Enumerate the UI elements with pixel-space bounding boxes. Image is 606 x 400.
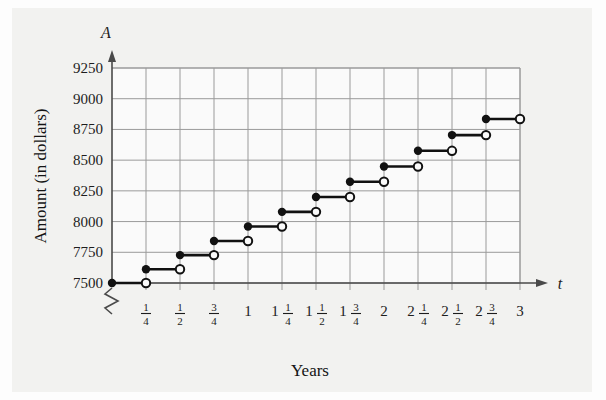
tick-fraction-numerator: 1 [177,301,183,313]
y-axis-tick-label: 7500 [73,275,103,291]
y-axis-tick-label: 9000 [73,91,103,107]
tick-whole-number: 2 [380,303,388,319]
tick-fraction-denominator: 4 [489,315,495,327]
open-endpoint-marker [244,237,252,245]
y-axis-tick-labels: 75007750800082508500875090009250 [73,60,103,291]
x-axis-tick-label: 1 [244,303,252,319]
x-axis-tick-label: 234 [475,301,497,327]
closed-endpoint-marker [210,237,218,245]
closed-endpoint-marker [448,131,456,139]
tick-whole-number: 1 [339,303,347,319]
tick-fraction-denominator: 2 [455,315,461,327]
y-axis-tick-label: 8500 [73,152,103,168]
x-axis-tick-label: 214 [407,301,429,327]
open-endpoint-marker [380,178,388,186]
tick-fraction-numerator: 1 [455,301,461,313]
y-axis-tick-label: 7750 [73,244,103,260]
tick-whole-number: 2 [475,303,483,319]
tick-fraction-numerator: 3 [211,301,217,313]
open-endpoint-marker [210,251,218,259]
tick-fraction-numerator: 3 [489,301,495,313]
x-axis-title: Years [291,361,329,380]
x-axis-tick-label: 14 [141,301,151,327]
x-axis-tick-label: 34 [209,301,219,327]
closed-endpoint-marker [380,162,388,170]
x-axis-variable-label: t [558,275,563,292]
open-endpoint-marker [346,193,354,201]
tick-whole-number: 1 [271,303,279,319]
tick-whole-number: 1 [305,303,313,319]
tick-whole-number: 1 [244,303,252,319]
open-endpoint-marker [482,131,490,139]
tick-whole-number: 2 [441,303,449,319]
tick-fraction-numerator: 1 [143,301,149,313]
closed-endpoint-marker [176,251,184,259]
closed-endpoint-marker [278,208,286,216]
y-axis-break-icon [105,288,118,314]
y-axis-tick-label: 9250 [73,60,103,76]
y-axis-tick-label: 8750 [73,121,103,137]
figure-page: 75007750800082508500875090009250 1412341… [0,0,606,400]
y-axis-arrow-icon [108,50,116,62]
tick-fraction-denominator: 4 [285,315,291,327]
closed-endpoint-marker [346,178,354,186]
tick-fraction-denominator: 2 [177,315,183,327]
open-endpoint-marker [414,162,422,170]
y-axis-title: Amount (in dollars) [31,108,50,243]
x-axis-tick-label: 112 [305,301,327,327]
tick-fraction-denominator: 4 [421,315,427,327]
open-endpoint-marker [448,147,456,155]
closed-endpoint-marker [142,265,150,273]
tick-fraction-numerator: 1 [421,301,427,313]
x-axis-tick-label: 114 [271,301,293,327]
x-axis-tick-labels: 141234111411213422142122343 [141,301,524,327]
y-axis-tick-label: 8250 [73,183,103,199]
x-axis-arrow-icon [536,279,548,287]
y-axis-tick-label: 8000 [73,214,103,230]
tick-fraction-denominator: 4 [353,315,359,327]
x-axis-tick-label: 2 [380,303,388,319]
closed-endpoint-marker [312,193,320,201]
open-endpoint-marker [312,208,320,216]
x-axis-tick-label: 212 [441,301,463,327]
tick-fraction-numerator: 1 [319,301,325,313]
tick-fraction-numerator: 3 [353,301,359,313]
closed-endpoint-marker [244,222,252,230]
y-axis-variable-label: A [100,24,111,41]
open-endpoint-marker [142,279,150,287]
x-axis-tick-label: 12 [175,301,185,327]
x-axis-tick-label: 3 [516,303,524,319]
open-endpoint-marker [176,265,184,273]
x-axis-tick-label: 134 [339,301,361,327]
closed-endpoint-marker [108,279,116,287]
open-endpoint-marker [516,115,524,123]
tick-whole-number: 3 [516,303,524,319]
chart-figure: 75007750800082508500875090009250 1412341… [0,0,606,400]
chart-canvas: 75007750800082508500875090009250 1412341… [0,0,606,400]
closed-endpoint-marker [414,147,422,155]
tick-fraction-denominator: 2 [319,315,325,327]
tick-fraction-denominator: 4 [211,315,217,327]
open-endpoint-marker [278,222,286,230]
closed-endpoint-marker [482,115,490,123]
tick-fraction-denominator: 4 [143,315,149,327]
tick-fraction-numerator: 1 [285,301,291,313]
tick-whole-number: 2 [407,303,415,319]
